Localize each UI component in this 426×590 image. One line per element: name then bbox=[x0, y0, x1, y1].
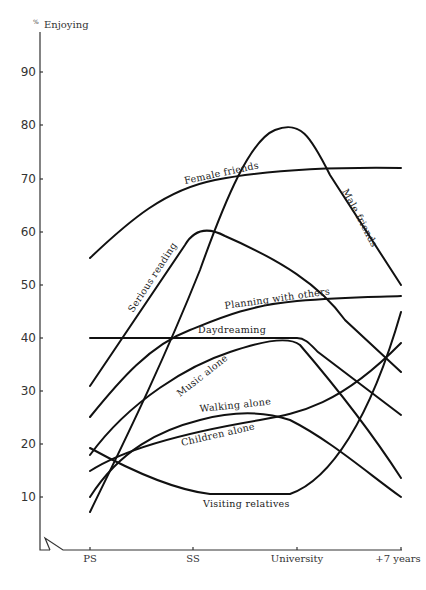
y-axis bbox=[40, 32, 50, 550]
y-tick-label: 20 bbox=[21, 437, 36, 451]
y-axis-unit: % bbox=[33, 18, 39, 25]
y-tick-label: 40 bbox=[21, 331, 36, 345]
x-axis bbox=[45, 538, 402, 550]
y-tick-label: 10 bbox=[21, 490, 36, 504]
label-serious-reading: Serious reading bbox=[125, 240, 178, 314]
x-tick-label: +7 years bbox=[375, 553, 420, 564]
series-labels: Female friends Male friends Serious read… bbox=[125, 159, 380, 509]
x-tick-label: University bbox=[271, 553, 324, 564]
label-children-alone: Children alone bbox=[180, 420, 256, 448]
y-tick-label: 50 bbox=[21, 278, 36, 292]
line-chart: % Enjoying 90 80 70 60 50 40 30 20 10 PS… bbox=[0, 0, 426, 590]
label-walking-alone: Walking alone bbox=[199, 396, 272, 414]
series-male-friends bbox=[90, 127, 401, 512]
y-tick-label: 80 bbox=[21, 118, 36, 132]
x-tick-label: SS bbox=[186, 553, 200, 564]
label-visiting-relatives: Visiting relatives bbox=[202, 498, 290, 509]
y-tick-label: 70 bbox=[21, 172, 36, 186]
series-music-alone bbox=[90, 341, 401, 478]
label-planning-with-others: Planning with others bbox=[224, 285, 331, 311]
y-tick-label: 60 bbox=[21, 225, 36, 239]
label-daydreaming: Daydreaming bbox=[198, 324, 266, 335]
series-lines bbox=[90, 127, 401, 512]
y-axis-title: Enjoying bbox=[44, 19, 89, 30]
label-male-friends: Male friends bbox=[340, 187, 380, 249]
label-female-friends: Female friends bbox=[183, 159, 260, 186]
x-tick-label: PS bbox=[83, 553, 97, 564]
y-tick-label: 30 bbox=[21, 384, 36, 398]
y-tick-label: 90 bbox=[21, 65, 36, 79]
label-music-alone: Music alone bbox=[174, 352, 229, 399]
